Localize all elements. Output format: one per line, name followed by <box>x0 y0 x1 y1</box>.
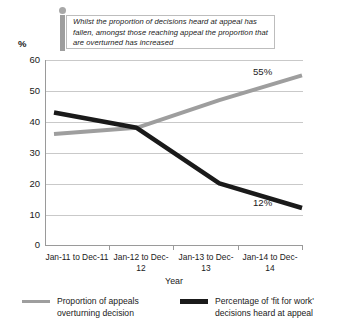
chart-legend: Proportion of appeals overturning decisi… <box>0 295 348 330</box>
gridline-10 <box>45 215 303 216</box>
y-tick-30: 30 <box>14 147 40 158</box>
gridline-20 <box>45 184 303 185</box>
legend-label-0: Proportion of appeals overturning decisi… <box>57 295 177 320</box>
x-axis-title: Year <box>0 276 348 286</box>
value-label-black: 12% <box>253 197 272 208</box>
callout-annotation: Whilst the proportion of decisions heard… <box>59 7 277 49</box>
x-tickmark-2 <box>173 246 174 250</box>
gridline-50 <box>45 91 303 92</box>
legend-swatch-grey <box>22 300 50 303</box>
y-tick-0: 0 <box>14 239 40 250</box>
gridline-30 <box>45 153 303 154</box>
line-percentage-heard-at-appeal <box>54 112 302 208</box>
y-tick-10: 10 <box>14 209 40 220</box>
x-tick-label-1: Jan-12 to Dec-12 <box>109 252 173 274</box>
legend-swatch-black <box>180 299 208 304</box>
callout-text: Whilst the proportion of decisions heard… <box>73 17 273 49</box>
gridline-60 <box>45 60 303 61</box>
legend-label-1: Percentage of 'fit for work' decisions h… <box>215 295 335 320</box>
y-tick-60: 60 <box>14 54 40 65</box>
callout-accent-bar <box>60 15 65 51</box>
y-tick-50: 50 <box>14 85 40 96</box>
x-tick-label-0: Jan-11 to Dec-11 <box>45 252 109 263</box>
x-tickmark-1 <box>109 246 110 250</box>
y-axis-line <box>45 60 46 246</box>
y-axis-unit-label: % <box>18 38 26 49</box>
chart-plot-area: % 60 50 40 30 20 10 0 Jan-11 to Dec-11 J… <box>0 0 348 330</box>
y-tick-20: 20 <box>14 178 40 189</box>
callout-dot-icon <box>59 7 66 14</box>
value-label-grey: 55% <box>253 66 272 77</box>
x-tickmark-4 <box>302 246 303 250</box>
x-tick-label-2: Jan-13 to Dec-13 <box>174 252 238 274</box>
x-tickmark-3 <box>238 246 239 250</box>
gridline-40 <box>45 122 303 123</box>
line-proportion-overturning <box>54 75 302 134</box>
y-tick-40: 40 <box>14 116 40 127</box>
x-axis-line <box>45 245 303 246</box>
x-tick-label-3: Jan-14 to Dec-14 <box>238 252 302 274</box>
